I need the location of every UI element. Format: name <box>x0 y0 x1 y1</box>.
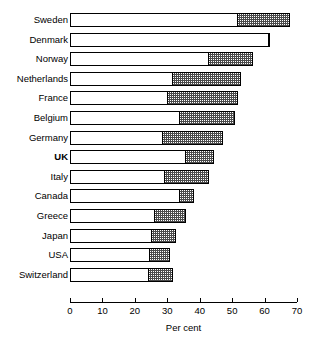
bar-category-label: Netherlands <box>0 71 68 86</box>
bar-segment-a <box>70 229 152 243</box>
x-axis-tick-label: 20 <box>120 305 150 317</box>
bar-segment-b <box>185 150 214 164</box>
bar-segment-b <box>208 52 253 66</box>
bar-segment-b <box>149 248 169 262</box>
bar-track <box>70 170 208 184</box>
bar-category-label: France <box>0 90 68 105</box>
bar-category-label: Canada <box>0 188 68 203</box>
bar-segment-a <box>70 13 238 27</box>
bar-row: Sweden <box>0 13 312 27</box>
x-axis-tick-label: 70 <box>282 305 312 317</box>
bar-segment-a <box>70 72 173 86</box>
bar-row: France <box>0 91 312 105</box>
bar-category-label: Greece <box>0 208 68 223</box>
bar-track <box>70 209 185 223</box>
bar-row: USA <box>0 248 312 262</box>
bar-category-label: Italy <box>0 169 68 184</box>
x-axis-tick <box>200 298 201 302</box>
bar-row: Netherlands <box>0 72 312 86</box>
bar-segment-a <box>70 248 150 262</box>
bar-segment-a <box>70 131 163 145</box>
bar-segment-a <box>70 189 180 203</box>
bar-segment-b <box>164 170 209 184</box>
bar-track <box>70 13 289 27</box>
bar-segment-a <box>70 52 209 66</box>
bar-segment-b <box>268 33 271 47</box>
bar-row: Denmark <box>0 33 312 47</box>
x-axis-tick <box>135 298 136 302</box>
bar-category-label: USA <box>0 247 68 262</box>
bar-track <box>70 150 213 164</box>
x-axis-tick-label: 30 <box>152 305 182 317</box>
bar-track <box>70 33 269 47</box>
horizontal-stacked-bar-chart: SwedenDenmarkNorwayNetherlandsFranceBelg… <box>0 0 312 344</box>
bar-segment-b <box>179 111 235 125</box>
bar-track <box>70 229 175 243</box>
bar-track <box>70 111 234 125</box>
bar-segment-b <box>167 91 238 105</box>
bar-row: Italy <box>0 170 312 184</box>
x-axis-tick <box>102 298 103 302</box>
bar-segment-a <box>70 33 269 47</box>
bar-category-label: Norway <box>0 51 68 66</box>
bar-segment-b <box>162 131 223 145</box>
x-axis-tick-label: 60 <box>250 305 280 317</box>
bar-segment-a <box>70 91 168 105</box>
x-axis-tick-label: 40 <box>185 305 215 317</box>
bar-category-label: Denmark <box>0 32 68 47</box>
x-axis-tick <box>297 298 298 302</box>
bar-row: Canada <box>0 189 312 203</box>
bar-category-label: Japan <box>0 228 68 243</box>
bar-segment-a <box>70 170 165 184</box>
bar-row: Greece <box>0 209 312 223</box>
bar-track <box>70 72 240 86</box>
bar-track <box>70 268 172 282</box>
bar-segment-b <box>237 13 290 27</box>
bar-category-label: UK <box>0 149 68 164</box>
bar-segment-b <box>172 72 241 86</box>
bar-row: Switzerland <box>0 268 312 282</box>
x-axis-tick <box>232 298 233 302</box>
bar-segment-b <box>154 209 186 223</box>
bar-category-label: Switzerland <box>0 267 68 282</box>
bar-segment-a <box>70 111 180 125</box>
x-axis-title: Per cent <box>70 322 297 334</box>
x-axis-tick-label: 10 <box>87 305 117 317</box>
bar-category-label: Belgium <box>0 110 68 125</box>
bar-row: Belgium <box>0 111 312 125</box>
x-axis-line <box>70 302 297 303</box>
bar-segment-a <box>70 209 155 223</box>
x-axis-tick <box>167 298 168 302</box>
bar-track <box>70 91 237 105</box>
bar-track <box>70 52 252 66</box>
bar-row: UK <box>0 150 312 164</box>
bar-category-label: Germany <box>0 130 68 145</box>
x-axis: 010203040506070 Per cent <box>0 302 312 344</box>
bar-row: Norway <box>0 52 312 66</box>
bar-segment-a <box>70 268 149 282</box>
bar-track <box>70 248 169 262</box>
bar-track <box>70 189 193 203</box>
x-axis-tick <box>70 298 71 302</box>
bar-category-label: Sweden <box>0 12 68 27</box>
x-axis-tick-label: 0 <box>55 305 85 317</box>
bar-segment-b <box>148 268 173 282</box>
x-axis-tick-label: 50 <box>217 305 247 317</box>
bar-row: Japan <box>0 229 312 243</box>
bar-track <box>70 131 222 145</box>
bar-segment-b <box>179 189 195 203</box>
bar-segment-b <box>151 229 176 243</box>
bar-segment-a <box>70 150 186 164</box>
bar-row: Germany <box>0 131 312 145</box>
x-axis-tick <box>265 298 266 302</box>
